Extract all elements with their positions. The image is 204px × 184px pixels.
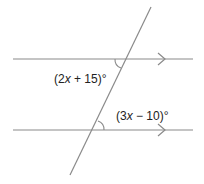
transversal-line (70, 7, 151, 175)
angle-label-upper: (2x + 15)° (54, 72, 107, 86)
angle-arc-lower-icon (98, 121, 104, 130)
angle-arc-upper-icon (115, 59, 121, 68)
angle-label-lower: (3x − 10)° (116, 109, 169, 123)
diagram: (2x + 15)° (3x − 10)° (0, 0, 204, 184)
